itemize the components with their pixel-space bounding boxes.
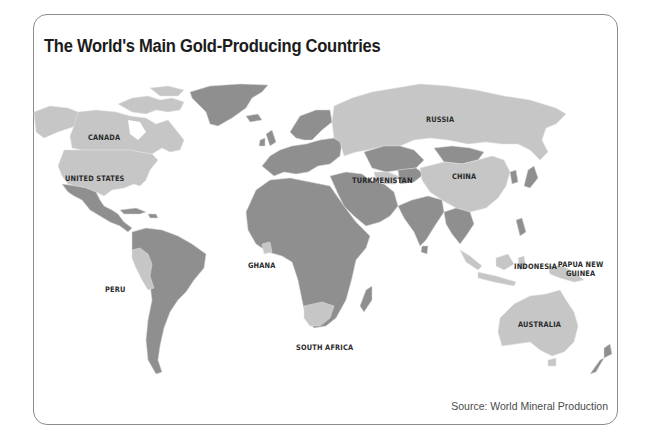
label-russia: RUSSIA (426, 115, 454, 124)
canada (70, 110, 184, 154)
new-zealand (604, 344, 612, 358)
europe (262, 138, 342, 176)
label-turkmenistan: TURKMENISTAN (352, 176, 413, 185)
label-china: CHINA (452, 172, 476, 181)
world-map (0, 0, 652, 440)
source-note: Source: World Mineral Production (451, 400, 608, 412)
label-papua-new-guinea-text: PAPUA NEW GUINEA (558, 260, 604, 278)
label-south-africa: SOUTH AFRICA (296, 343, 353, 352)
indonesia (460, 250, 482, 270)
label-australia: AUSTRALIA (518, 320, 561, 329)
southeast-asia (444, 208, 474, 244)
south-america (132, 228, 206, 374)
label-canada: CANADA (88, 133, 120, 142)
label-peru: PERU (105, 285, 126, 294)
ghana (262, 242, 272, 254)
madagascar (360, 286, 372, 312)
label-papua-new-guinea: PAPUA NEW GUINEA (556, 260, 605, 278)
label-ghana: GHANA (248, 261, 276, 270)
canada-arctic (118, 96, 184, 114)
india (398, 196, 444, 246)
label-united-states: UNITED STATES (65, 174, 125, 183)
label-indonesia: INDONESIA (514, 262, 557, 271)
